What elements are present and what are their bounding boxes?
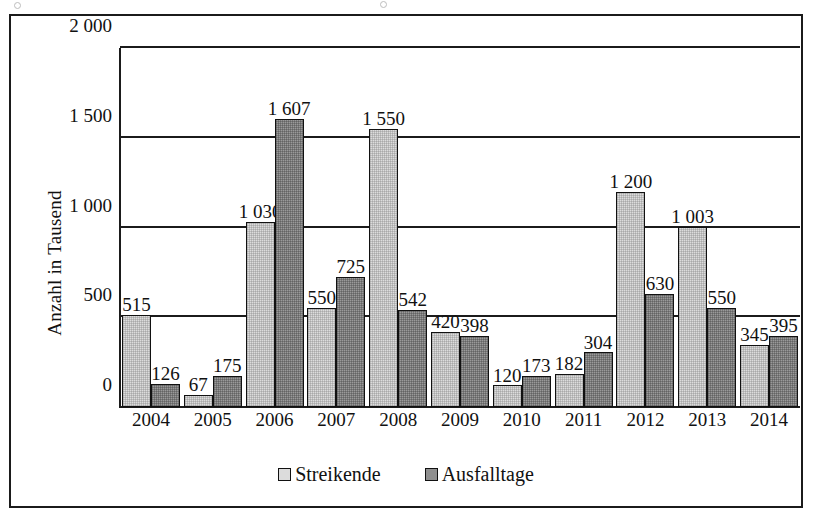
bar-value-label: 67: [189, 375, 208, 395]
bar-ausfalltage-2004[interactable]: 126: [151, 384, 180, 407]
bar-value-label: 1 607: [268, 99, 311, 119]
bar-group-2009: 420398: [429, 48, 491, 407]
bar-value-label: 398: [460, 316, 489, 336]
bar-value-label: 1 200: [610, 172, 653, 192]
bar-value-label: 304: [584, 333, 613, 353]
x-tick-label-2010: 2010: [491, 409, 553, 431]
bar-group-2007: 550725: [305, 48, 367, 407]
x-axis-labels: 2004200520062007200820092010201120122013…: [120, 409, 800, 431]
y-tick-label: 500: [84, 284, 113, 306]
bar-group-2008: 1 550542: [367, 48, 429, 407]
bar-ausfalltage-2006[interactable]: 1 607: [275, 119, 304, 407]
scan-speck: [14, 2, 21, 9]
y-tick-label: 0: [103, 374, 113, 396]
x-tick-label-2012: 2012: [615, 409, 677, 431]
bar-streikende-2006[interactable]: 1 030: [246, 222, 275, 407]
bar-streikende-2014[interactable]: 345: [740, 345, 769, 407]
bar-value-label: 550: [707, 288, 736, 308]
dark-gray-swatch: [425, 468, 438, 481]
x-tick-label-2005: 2005: [182, 409, 244, 431]
x-tick-label-2009: 2009: [429, 409, 491, 431]
x-tick-label-2004: 2004: [120, 409, 182, 431]
bar-value-label: 126: [151, 364, 180, 384]
bar-group-2012: 1 200630: [615, 48, 677, 407]
bar-ausfalltage-2005[interactable]: 175: [213, 376, 242, 407]
x-tick-label-2006: 2006: [244, 409, 306, 431]
bar-ausfalltage-2011[interactable]: 304: [584, 352, 613, 407]
x-tick-label-2008: 2008: [367, 409, 429, 431]
bar-value-label: 182: [555, 354, 584, 374]
bar-group-2013: 1 003550: [676, 48, 738, 407]
x-tick-label-2007: 2007: [305, 409, 367, 431]
bar-value-label: 515: [122, 295, 151, 315]
x-tick-label-2014: 2014: [738, 409, 800, 431]
bar-value-label: 173: [522, 356, 551, 376]
bar-streikende-2004[interactable]: 515: [122, 315, 151, 407]
bar-streikende-2013[interactable]: 1 003: [678, 227, 707, 407]
bar-streikende-2011[interactable]: 182: [555, 374, 584, 407]
bar-value-label: 395: [769, 316, 798, 336]
bar-value-label: 345: [740, 325, 769, 345]
y-tick-label: 2 000: [69, 15, 112, 37]
bar-value-label: 725: [337, 257, 366, 277]
chart-legend: StreikendeAusfalltage: [11, 463, 801, 486]
bar-ausfalltage-2009[interactable]: 398: [460, 336, 489, 407]
bar-group-2010: 120173: [491, 48, 553, 407]
bar-value-label: 542: [398, 290, 427, 310]
legend-item-ausfalltage[interactable]: Ausfalltage: [425, 463, 534, 486]
bar-group-2011: 182304: [553, 48, 615, 407]
bar-group-2014: 345395: [738, 48, 800, 407]
bar-value-label: 630: [646, 274, 675, 294]
bar-group-2005: 67175: [182, 48, 244, 407]
bar-value-label: 550: [308, 288, 337, 308]
y-tick-label: 1 500: [69, 105, 112, 127]
bar-ausfalltage-2014[interactable]: 395: [769, 336, 798, 407]
bar-streikende-2010[interactable]: 120: [493, 385, 522, 407]
bar-streikende-2005[interactable]: 67: [184, 395, 213, 407]
x-tick-label-2013: 2013: [676, 409, 738, 431]
bar-ausfalltage-2008[interactable]: 542: [398, 310, 427, 407]
bar-value-label: 120: [493, 366, 522, 386]
x-tick-label-2011: 2011: [553, 409, 615, 431]
bar-ausfalltage-2012[interactable]: 630: [645, 294, 674, 407]
bar-ausfalltage-2010[interactable]: 173: [522, 376, 551, 407]
chart-frame: Anzahl in Tausend 05001 0001 5002 000 51…: [9, 14, 803, 508]
bar-groups: 515126671751 0301 6075507251 55054242039…: [120, 48, 800, 407]
bar-group-2004: 515126: [120, 48, 182, 407]
bar-streikende-2012[interactable]: 1 200: [616, 192, 645, 407]
bar-group-2006: 1 0301 607: [244, 48, 306, 407]
y-axis-title: Anzahl in Tausend: [44, 143, 66, 383]
bar-ausfalltage-2007[interactable]: 725: [336, 277, 365, 407]
bar-ausfalltage-2013[interactable]: 550: [707, 308, 736, 407]
bar-streikende-2009[interactable]: 420: [431, 332, 460, 407]
bar-value-label: 420: [431, 312, 460, 332]
legend-label: Streikende: [295, 463, 381, 486]
plot-area: 05001 0001 5002 000 515126671751 0301 60…: [120, 48, 800, 407]
y-tick-label: 1 000: [69, 195, 112, 217]
light-gray-swatch: [278, 468, 291, 481]
bar-value-label: 1 550: [362, 109, 405, 129]
bar-value-label: 1 003: [671, 207, 714, 227]
bar-value-label: 175: [213, 356, 242, 376]
scan-speck: [380, 1, 387, 8]
legend-item-streikende[interactable]: Streikende: [278, 463, 381, 486]
legend-label: Ausfalltage: [442, 463, 534, 486]
bar-streikende-2007[interactable]: 550: [307, 308, 336, 407]
bar-streikende-2008[interactable]: 1 550: [369, 129, 398, 407]
